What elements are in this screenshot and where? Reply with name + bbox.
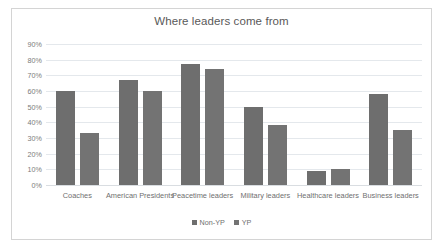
bar[interactable] xyxy=(205,69,224,185)
bar[interactable] xyxy=(307,171,326,185)
bar[interactable] xyxy=(369,94,388,185)
bar[interactable] xyxy=(143,91,162,185)
gridline xyxy=(46,185,422,186)
y-axis-tick-label: 40% xyxy=(28,118,42,127)
plot-area: 0%10%20%30%40%50%60%70%80%90% CoachesAme… xyxy=(46,44,422,185)
bar-group-bars xyxy=(234,44,297,185)
y-axis-tick-label: 20% xyxy=(28,149,42,158)
bar-group: Coaches xyxy=(46,44,109,185)
y-axis-tick-label: 10% xyxy=(28,165,42,174)
legend-swatch-icon xyxy=(234,220,239,225)
legend-label: Non-YP xyxy=(200,218,225,227)
legend-swatch-icon xyxy=(192,220,197,225)
bar-group-bars xyxy=(109,44,172,185)
bar-group-bars xyxy=(171,44,234,185)
y-axis-tick-label: 90% xyxy=(28,40,42,49)
bar-group: Military leaders xyxy=(234,44,297,185)
bar-group: Peacetime leaders xyxy=(171,44,234,185)
y-axis-tick-label: 80% xyxy=(28,55,42,64)
y-axis-tick-label: 60% xyxy=(28,87,42,96)
y-axis-tick-label: 30% xyxy=(28,134,42,143)
bar[interactable] xyxy=(244,107,263,185)
legend-label: YP xyxy=(242,218,252,227)
bar[interactable] xyxy=(119,80,138,185)
bar[interactable] xyxy=(181,64,200,185)
bar-group-bars xyxy=(297,44,360,185)
x-axis-category-label: Business leaders xyxy=(354,191,428,201)
bar[interactable] xyxy=(331,169,350,185)
bar-group-bars xyxy=(359,44,422,185)
bar[interactable] xyxy=(56,91,75,185)
bar-group-bars xyxy=(46,44,109,185)
bar[interactable] xyxy=(80,133,99,185)
legend-item[interactable]: YP xyxy=(234,218,252,227)
y-axis-tick-label: 50% xyxy=(28,102,42,111)
legend-item[interactable]: Non-YP xyxy=(192,218,225,227)
y-axis-tick-label: 70% xyxy=(28,71,42,80)
bar-group: Business leaders xyxy=(359,44,422,185)
bar[interactable] xyxy=(268,125,287,185)
chart-legend: Non-YPYP xyxy=(12,218,431,227)
bar[interactable] xyxy=(393,130,412,185)
chart-title: Where leaders come from xyxy=(12,15,431,27)
y-axis-tick-label: 0% xyxy=(32,181,42,190)
bar-group: Healthcare leaders xyxy=(297,44,360,185)
chart-container: Where leaders come from 0%10%20%30%40%50… xyxy=(11,8,432,240)
bar-groups: CoachesAmerican PresidentsPeacetime lead… xyxy=(46,44,422,185)
bar-group: American Presidents xyxy=(109,44,172,185)
